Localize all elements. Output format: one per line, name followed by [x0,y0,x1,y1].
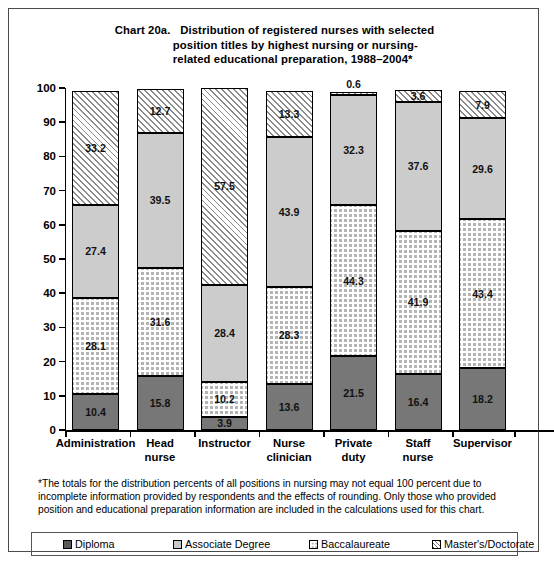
y-tick-label-90: 90 [18,116,56,128]
segment-diploma[interactable]: 10.4 [72,394,119,430]
y-tick-label-30: 30 [18,321,56,333]
segment-value-label: 10.2 [202,394,247,405]
y-tick-80 [59,156,65,158]
y-tick-90 [59,121,65,123]
chart-number-label: Chart 20a. [115,24,171,36]
associate-swatch-icon [173,540,182,549]
segment-master-s-doctorate[interactable] [330,92,377,94]
segment-baccalaureate[interactable]: 28.3 [266,287,313,384]
segment-value-label: 28.1 [73,341,118,352]
segment-diploma[interactable]: 16.4 [395,374,442,430]
segment-value-label: 33.2 [73,143,118,154]
segment-value-label: 12.7 [138,106,183,117]
segment-master-s-doctorate[interactable]: 33.2 [72,91,119,205]
segment-baccalaureate[interactable]: 41.9 [395,231,442,374]
plot-area: 0102030405060708090100 10.428.127.433.21… [66,88,522,430]
segment-value-label: 41.9 [396,297,441,308]
chart-legend: DiplomaAssociate DegreeBaccalaureateMast… [31,532,518,556]
segment-value-label: 3.9 [202,418,247,429]
y-tick-label-70: 70 [18,185,56,197]
segment-master-s-doctorate[interactable]: 12.7 [137,89,184,132]
segment-value-label: 28.4 [202,328,247,339]
segment-value-label: 27.4 [73,246,118,257]
segment-diploma[interactable]: 21.5 [330,356,377,430]
segment-baccalaureate[interactable]: 44.3 [330,205,377,357]
segment-value-label: 0.6 [322,78,385,90]
bar-head-nurse[interactable]: 15.831.639.512.7 [137,89,184,430]
segment-value-label: 28.3 [267,330,312,341]
bar-staff-nurse[interactable]: 16.441.937.63.6 [395,90,442,430]
y-tick-40 [59,292,65,294]
segment-value-label: 43.9 [267,206,312,217]
y-tick-20 [59,361,65,363]
bar-nurse-clinician[interactable]: 13.628.343.913.3 [266,91,313,430]
segment-master-s-doctorate[interactable]: 13.3 [266,91,313,136]
legend-item-master-s-doctorate[interactable]: Master's/Doctorate [432,538,534,550]
segment-associate-degree[interactable]: 43.9 [266,137,313,287]
segment-diploma[interactable]: 15.8 [137,376,184,430]
legend-label: Master's/Doctorate [444,538,534,550]
segment-baccalaureate[interactable]: 28.1 [72,298,119,394]
chart-title: Chart 20a. Distribution of registered nu… [9,23,540,67]
y-tick-label-40: 40 [18,287,56,299]
segment-value-label: 31.6 [138,317,183,328]
bar-supervisor[interactable]: 18.243.429.67.9 [459,91,506,430]
baccalaureate-swatch-icon [309,540,318,549]
chart-footnote: *The totals for the distribution percent… [38,477,508,517]
y-tick-label-20: 20 [18,356,56,368]
segment-diploma[interactable]: 18.2 [459,368,506,430]
legend-label: Baccalaureate [321,538,390,550]
bar-instructor[interactable]: 3.910.228.457.5 [201,88,248,430]
segment-value-label: 3.6 [396,91,441,102]
y-tick-label-100: 100 [18,82,56,94]
legend-item-diploma[interactable]: Diploma [63,538,115,550]
segment-value-label: 10.4 [73,407,118,418]
y-tick-label-60: 60 [18,219,56,231]
legend-item-associate-degree[interactable]: Associate Degree [173,538,270,550]
y-tick-50 [59,258,65,260]
segment-master-s-doctorate[interactable]: 3.6 [395,90,442,102]
segment-value-label: 21.5 [331,388,376,399]
segment-value-label: 37.6 [396,161,441,172]
segment-associate-degree[interactable]: 37.6 [395,102,442,231]
y-tick-label-0: 0 [18,424,56,436]
segment-master-s-doctorate[interactable]: 57.5 [201,88,248,285]
diploma-swatch-icon [63,540,72,549]
segment-value-label: 43.4 [460,288,505,299]
segment-value-label: 18.2 [460,394,505,405]
segment-baccalaureate[interactable]: 43.4 [459,219,506,367]
segment-associate-degree[interactable]: 28.4 [201,285,248,382]
chart-frame: Chart 20a. Distribution of registered nu… [8,8,539,552]
segment-value-label: 13.3 [267,109,312,120]
category-label-line: Supervisor [440,437,526,451]
segment-baccalaureate[interactable]: 31.6 [137,268,184,376]
category-label-supervisor: Supervisor [440,437,526,451]
segment-associate-degree[interactable]: 29.6 [459,118,506,219]
x-axis-line [65,430,554,432]
segment-diploma[interactable]: 3.9 [201,417,248,430]
chart-title-line-1: Distribution of registered nurses with s… [180,24,434,36]
segment-diploma[interactable]: 13.6 [266,384,313,431]
segment-associate-degree[interactable]: 32.3 [330,95,377,205]
segment-value-label: 57.5 [202,181,247,192]
segment-associate-degree[interactable]: 27.4 [72,205,119,299]
category-label-line: nurse [117,451,203,465]
y-tick-label-50: 50 [18,253,56,265]
segment-value-label: 44.3 [331,275,376,286]
chart-title-line-3: related educational preparation, 1988–20… [115,52,434,67]
segment-value-label: 39.5 [138,195,183,206]
legend-item-baccalaureate[interactable]: Baccalaureate [309,538,390,550]
segment-master-s-doctorate[interactable]: 7.9 [459,91,506,118]
segment-associate-degree[interactable]: 39.5 [137,133,184,268]
bar-administration[interactable]: 10.428.127.433.2 [72,91,119,430]
y-tick-100 [59,87,65,89]
bar-private-duty[interactable]: 21.544.332.30.6 [330,92,377,430]
category-label-line: nurse [375,451,461,465]
chart-title-line-2: position titles by highest nursing or nu… [115,38,434,53]
segment-value-label: 15.8 [138,398,183,409]
segment-baccalaureate[interactable]: 10.2 [201,382,248,417]
segment-value-label: 7.9 [460,99,505,110]
y-tick-70 [59,190,65,192]
segment-value-label: 16.4 [396,397,441,408]
legend-label: Associate Degree [185,538,270,550]
